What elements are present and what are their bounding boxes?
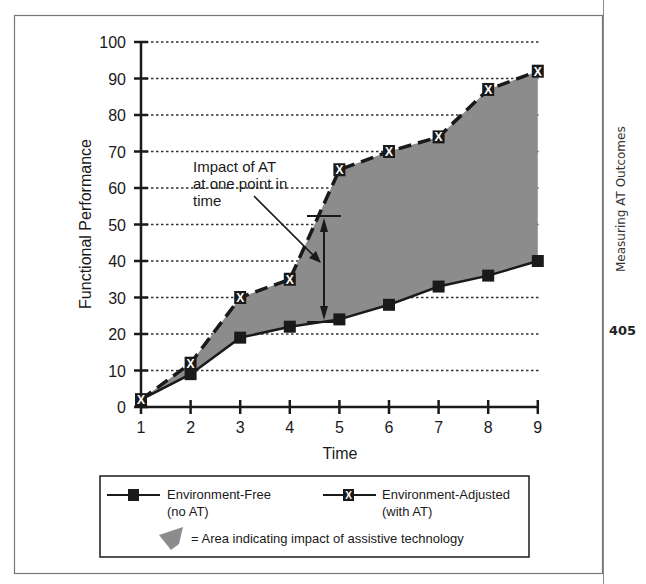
x-box-marker-icon: X	[532, 65, 544, 79]
y-tick-label: 90	[108, 71, 126, 88]
filled-square-marker-icon	[433, 281, 445, 293]
y-axis-label: Functional Performance	[77, 139, 94, 309]
x-box-marker-icon: X	[482, 83, 494, 97]
y-tick-label: 40	[108, 253, 126, 270]
svg-text:X: X	[435, 130, 443, 144]
y-tick-label: 70	[108, 144, 126, 161]
y-tick-label: 0	[117, 399, 126, 416]
x-tick-label: 7	[434, 419, 443, 436]
x-tick-label: 3	[236, 419, 245, 436]
filled-square-marker-icon	[284, 321, 296, 333]
svg-text:X: X	[335, 163, 343, 177]
filled-square-marker-icon	[383, 299, 395, 311]
legend-label-area: = Area indicating impact of assistive te…	[191, 531, 464, 546]
svg-text:X: X	[534, 65, 542, 79]
svg-text:X: X	[187, 357, 195, 371]
x-box-marker-icon: X	[135, 393, 147, 407]
x-box-marker-icon: X	[383, 145, 395, 159]
running-header: Measuring AT Outcomes	[614, 126, 628, 272]
x-tick-label: 4	[285, 419, 294, 436]
page-number: 405	[609, 323, 636, 338]
legend: Environment-Free (no AT) X Environment-A…	[100, 476, 529, 557]
x-tick-label: 5	[335, 419, 344, 436]
x-box-marker-icon: X	[343, 489, 354, 501]
y-tick-label: 80	[108, 107, 126, 124]
svg-text:X: X	[345, 490, 352, 501]
x-tick-label: 9	[533, 419, 542, 436]
x-box-marker-icon: X	[284, 273, 296, 287]
x-axis-label: Time	[323, 445, 358, 462]
y-tick-label: 50	[108, 217, 126, 234]
svg-text:X: X	[286, 273, 294, 287]
x-box-marker-icon: X	[333, 163, 345, 177]
y-tick-label: 60	[108, 180, 126, 197]
x-tick-label: 1	[137, 419, 146, 436]
filled-square-marker-icon	[532, 255, 544, 267]
filled-square-marker-icon	[333, 313, 345, 325]
chart-figure: 0102030405060708090100 123456789 XXXXXXX…	[0, 0, 646, 584]
svg-text:X: X	[385, 145, 393, 159]
y-tick-label: 20	[108, 326, 126, 343]
y-tick-label: 100	[99, 34, 126, 51]
filled-square-marker-icon	[128, 489, 139, 501]
svg-text:X: X	[236, 291, 244, 305]
x-box-marker-icon: X	[433, 130, 445, 144]
svg-text:X: X	[137, 393, 145, 407]
x-tick-label: 6	[385, 419, 394, 436]
y-tick-label: 30	[108, 290, 126, 307]
page-margin-rule	[603, 0, 604, 584]
y-tick-label: 10	[108, 363, 126, 380]
x-box-marker-icon: X	[234, 291, 246, 305]
filled-square-marker-icon	[482, 270, 494, 282]
x-tick-label: 8	[484, 419, 493, 436]
x-box-marker-icon: X	[185, 357, 197, 371]
x-tick-label: 2	[186, 419, 195, 436]
filled-square-marker-icon	[234, 332, 246, 344]
svg-text:X: X	[484, 83, 492, 97]
